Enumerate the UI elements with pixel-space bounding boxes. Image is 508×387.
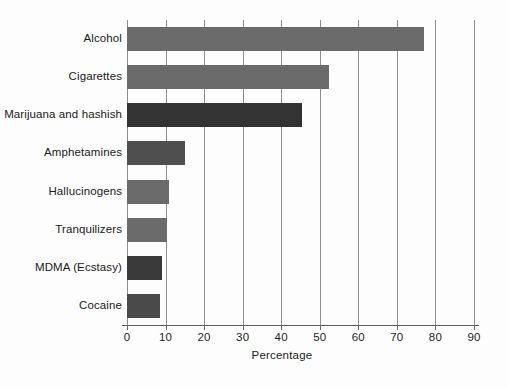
category-label: MDMA (Ecstasy): [2, 261, 122, 273]
x-axis-tick-label: 90: [454, 331, 494, 343]
category-label: Marijuana and hashish: [2, 108, 122, 120]
category-label: Alcohol: [2, 32, 122, 44]
category-axis-labels: AlcoholCigarettesMarijuana and hashishAm…: [0, 20, 122, 325]
x-axis-tick: [474, 325, 475, 330]
bar: [127, 27, 424, 51]
x-axis-tick-label: 60: [338, 331, 378, 343]
x-axis-tick-label: 70: [377, 331, 417, 343]
category-label: Cocaine: [2, 299, 122, 311]
category-label: Amphetamines: [2, 146, 122, 158]
bar: [127, 180, 169, 204]
plot-area: [127, 20, 474, 325]
bar: [127, 256, 162, 280]
x-axis-tick-label: 20: [184, 331, 224, 343]
x-axis-tick-label: 80: [415, 331, 455, 343]
gridline: [474, 20, 475, 325]
category-label: Hallucinogens: [2, 185, 122, 197]
x-axis-tick: [281, 325, 282, 330]
x-axis-tick: [358, 325, 359, 330]
x-axis-tick-label: 40: [261, 331, 301, 343]
x-axis-tick: [320, 325, 321, 330]
x-axis-tick: [127, 325, 128, 330]
bar: [127, 141, 185, 165]
x-axis-tick-label: 30: [223, 331, 263, 343]
bar: [127, 218, 167, 242]
bar: [127, 103, 302, 127]
bar: [127, 65, 329, 89]
bar: [127, 294, 160, 318]
x-axis-tick: [397, 325, 398, 330]
x-axis-tick: [243, 325, 244, 330]
category-label: Cigarettes: [2, 70, 122, 82]
x-axis-tick-label: 0: [107, 331, 147, 343]
x-axis-tick-label: 50: [300, 331, 340, 343]
x-axis-tick: [204, 325, 205, 330]
x-axis-tick-label: 10: [146, 331, 186, 343]
x-axis-line: [122, 325, 479, 326]
x-axis-tick: [435, 325, 436, 330]
x-axis-tick: [166, 325, 167, 330]
x-axis-title: Percentage: [0, 349, 508, 361]
gridline: [358, 20, 359, 325]
gridline: [397, 20, 398, 325]
category-label: Tranquilizers: [2, 223, 122, 235]
bar-chart-figure: AlcoholCigarettesMarijuana and hashishAm…: [0, 0, 508, 387]
gridline: [435, 20, 436, 325]
